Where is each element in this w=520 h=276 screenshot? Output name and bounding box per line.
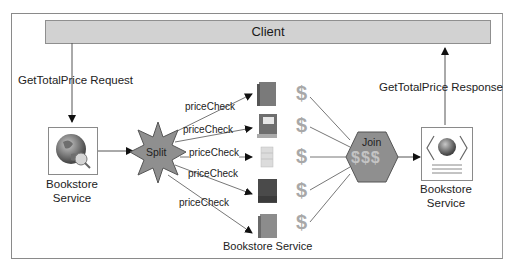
book-icon (256, 80, 278, 108)
price-dollar-4: $ (296, 179, 307, 202)
book-stack-icon (259, 145, 275, 169)
split-label: Split (146, 146, 166, 158)
web-service-document-icon (422, 128, 472, 180)
left-service-label: Bookstore Service (40, 177, 104, 205)
left-bookstore-service (48, 127, 98, 175)
price-check-label-4: priceCheck (188, 168, 238, 179)
price-dollar-3: $ (296, 145, 307, 168)
book-icon (256, 178, 278, 204)
open-book-icon (255, 112, 279, 140)
right-bookstore-service (421, 127, 473, 181)
request-label: GetTotalPrice Request (18, 74, 133, 86)
right-service-label: Bookstore Service (414, 182, 478, 210)
globe-search-icon (49, 128, 97, 174)
price-check-label-3: priceCheck (189, 147, 239, 158)
join-label: Join (362, 136, 381, 148)
price-check-label-2: priceCheck (183, 124, 233, 135)
price-check-label-5: priceCheck (179, 197, 229, 208)
join-dollars: $$$ (351, 149, 381, 167)
bookstore-group-label: Bookstore Service (223, 240, 312, 252)
book-icon (257, 212, 279, 240)
price-dollar-2: $ (296, 114, 307, 137)
response-label: GetTotalPrice Response (379, 81, 503, 93)
price-check-label-1: priceCheck (185, 101, 235, 112)
price-dollar-1: $ (296, 82, 307, 105)
price-dollar-5: $ (296, 211, 307, 234)
